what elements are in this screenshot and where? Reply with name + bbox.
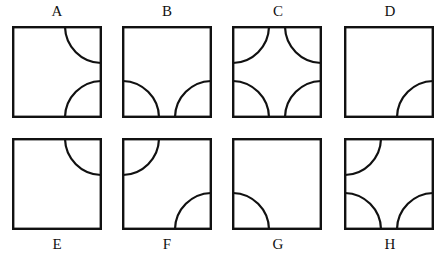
quarter-arc-bl <box>345 193 381 229</box>
figure-label-a: A <box>42 3 72 20</box>
figure-f <box>122 138 212 230</box>
square-frame <box>13 139 101 229</box>
quarter-arc-br <box>175 193 211 229</box>
figure-d <box>344 26 434 118</box>
quarter-arc-br <box>285 81 321 117</box>
square-frame <box>345 139 433 229</box>
figure-g <box>232 138 322 230</box>
figure-label-b: B <box>152 3 182 20</box>
quarter-arc-tr <box>285 27 321 63</box>
quarter-arc-tl <box>123 139 159 175</box>
quarter-arc-tr <box>65 27 101 63</box>
figure-label-e: E <box>42 236 72 253</box>
figure-label-f: F <box>152 236 182 253</box>
square-frame <box>123 139 211 229</box>
quarter-arc-bl <box>233 193 269 229</box>
quarter-arc-tl <box>345 139 381 175</box>
quarter-arc-tl <box>233 27 269 63</box>
figure-a <box>12 26 102 118</box>
square-frame <box>123 27 211 117</box>
square-frame <box>345 27 433 117</box>
figure-b <box>122 26 212 118</box>
figure-label-g: G <box>263 236 293 253</box>
quarter-arc-tr <box>65 139 101 175</box>
figure-e <box>12 138 102 230</box>
quarter-arc-bl <box>233 81 269 117</box>
square-frame <box>13 27 101 117</box>
figure-h <box>344 138 434 230</box>
figure-label-h: H <box>375 236 405 253</box>
square-frame <box>233 27 321 117</box>
quarter-arc-br <box>397 81 433 117</box>
quarter-arc-br <box>175 81 211 117</box>
figure-c <box>232 26 322 118</box>
quarter-arc-bl <box>123 81 159 117</box>
figure-label-d: D <box>375 3 405 20</box>
quarter-arc-br <box>397 193 433 229</box>
square-frame <box>233 139 321 229</box>
quarter-arc-br <box>65 81 101 117</box>
figure-label-c: C <box>263 3 293 20</box>
